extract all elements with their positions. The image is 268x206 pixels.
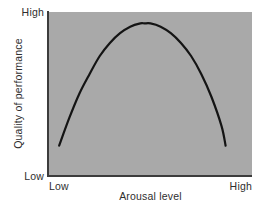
x-axis-line	[47, 175, 252, 177]
performance-curve	[49, 12, 252, 175]
yerkes-dodson-chart: High Low Low High Quality of performance…	[0, 0, 268, 206]
y-axis-title: Quality of performance	[12, 12, 26, 175]
curve-path	[59, 23, 225, 145]
x-axis-title: Arousal level	[49, 190, 252, 202]
